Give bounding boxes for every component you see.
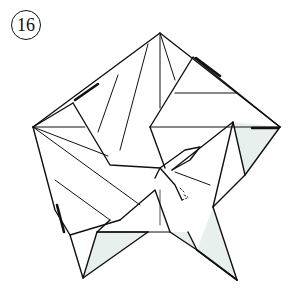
edge xyxy=(73,103,160,168)
shaded-flap-right xyxy=(233,122,280,175)
diagram-canvas: 16 xyxy=(0,0,307,299)
outline-top-left xyxy=(33,33,280,127)
origami-star-diagram xyxy=(0,0,307,299)
